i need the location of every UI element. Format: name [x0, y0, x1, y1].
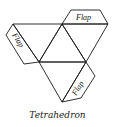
tetrahedron-net: Flap Flap Flap	[0, 0, 115, 110]
diagram-caption: Tetrahedron	[0, 110, 115, 120]
face-top-right	[62, 24, 108, 62]
flap-label-top: Flap	[75, 13, 91, 22]
face-center	[39, 24, 86, 62]
flap-label-left: Flap	[10, 30, 26, 48]
